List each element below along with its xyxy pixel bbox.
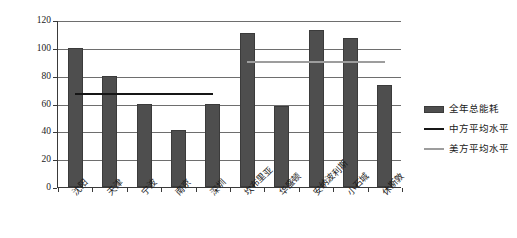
y-tick-label: 80 — [21, 72, 51, 82]
legend-key — [424, 103, 444, 115]
bar-宁波 — [137, 104, 152, 187]
chart-legend: 全年总能耗中方平均水平美方平均水平 — [424, 99, 516, 159]
bar-休斯敦 — [377, 85, 392, 187]
bar-坎布里亚 — [240, 33, 255, 187]
bar-天津 — [102, 76, 117, 187]
x-axis-labels: 沈阳天津宁波南京深圳坎布里亚华盛顿安纳波利斯小石城休斯敦 — [57, 190, 417, 238]
legend-line-icon — [424, 128, 444, 130]
legend-item-1[interactable]: 中方平均水平 — [424, 119, 516, 139]
legend-item-0[interactable]: 全年总能耗 — [424, 99, 516, 119]
legend-label: 中方平均水平 — [449, 124, 509, 135]
plot-area — [57, 21, 401, 188]
legend-item-2[interactable]: 美方平均水平 — [424, 139, 516, 159]
energy-consumption-bar-chart: kWh/m2 020406080100120 沈阳天津宁波南京深圳坎布里亚华盛顿… — [0, 0, 517, 238]
legend-swatch-icon — [424, 106, 444, 113]
y-tick-mark — [53, 188, 57, 189]
legend-line-icon — [424, 148, 444, 150]
legend-label: 全年总能耗 — [449, 104, 499, 115]
legend-key — [424, 143, 444, 155]
reference-line-us-average — [247, 61, 385, 63]
y-tick-label: 20 — [21, 155, 51, 165]
bar-深圳 — [205, 104, 220, 187]
bar-沈阳 — [68, 48, 83, 187]
y-tick-label: 0 — [21, 183, 51, 193]
legend-key — [424, 123, 444, 135]
reference-line-china-average — [75, 93, 213, 95]
y-tick-label: 60 — [21, 100, 51, 110]
y-tick-label: 40 — [21, 127, 51, 137]
bar-华盛顿 — [274, 106, 289, 187]
y-tick-label: 100 — [21, 44, 51, 54]
bar-series — [58, 21, 401, 187]
bar-安纳波利斯 — [309, 30, 324, 187]
y-tick-label: 120 — [21, 16, 51, 26]
legend-label: 美方平均水平 — [449, 144, 509, 155]
